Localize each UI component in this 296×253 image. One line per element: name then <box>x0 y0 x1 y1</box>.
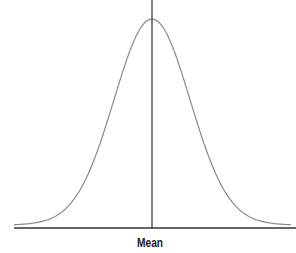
bell-curve-diagram <box>0 0 296 253</box>
mean-label: Mean <box>23 236 278 250</box>
